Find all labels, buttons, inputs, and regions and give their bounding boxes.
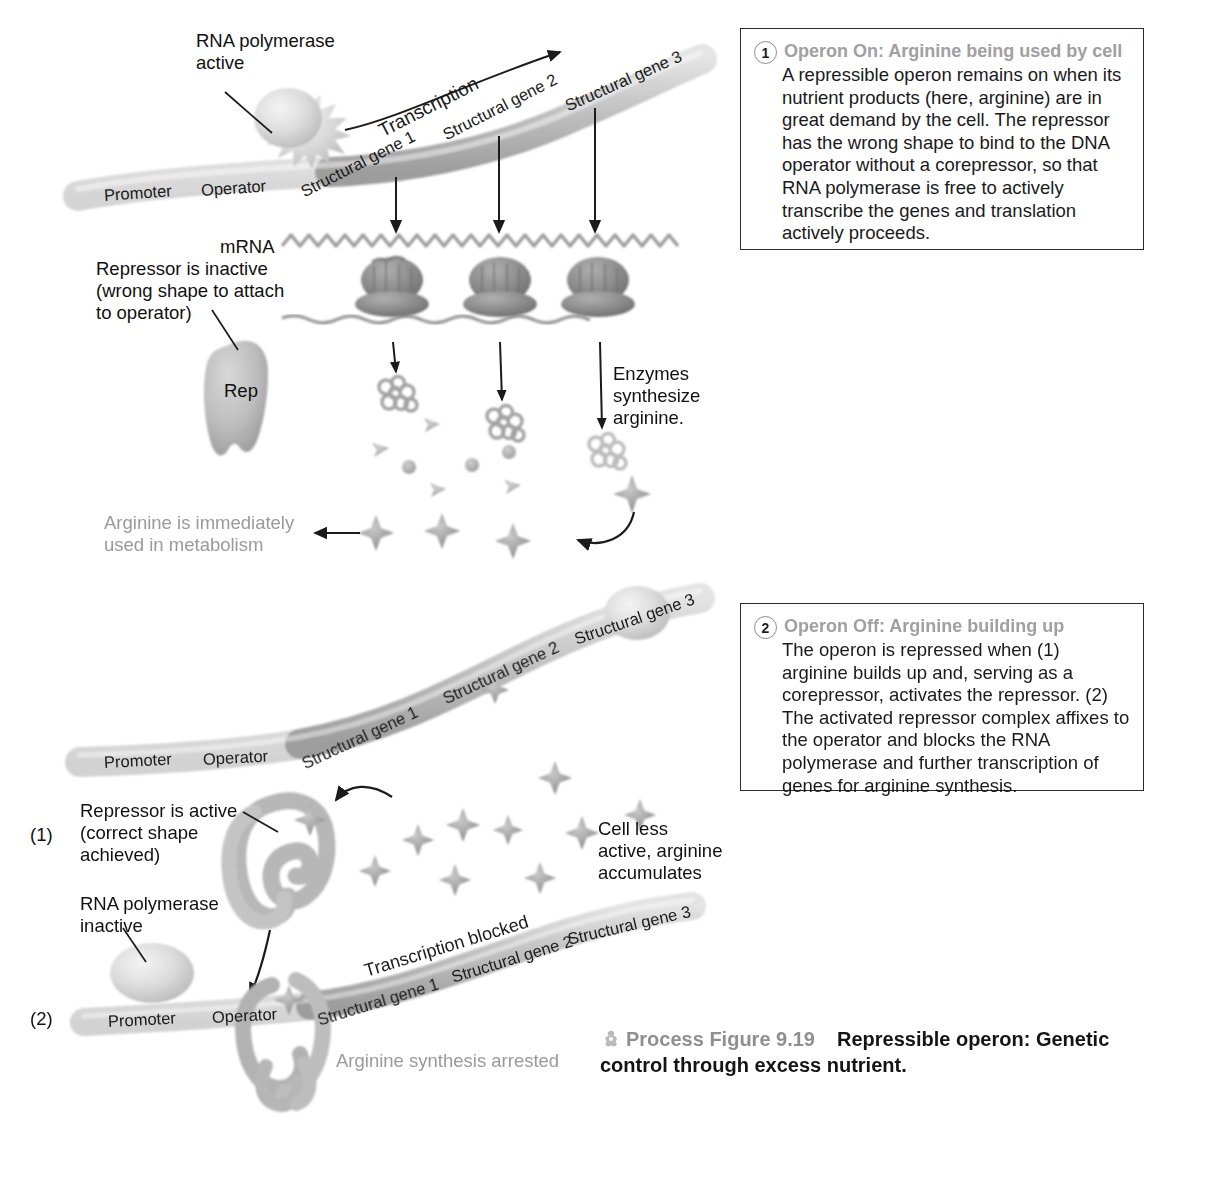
dna-label-gene1-off-top: Structural gene 1: [299, 703, 421, 773]
callout-1-body: A repressible operon remains on when its…: [782, 64, 1130, 245]
dna-label-gene1-off-bottom: Structural gene 1: [315, 975, 441, 1030]
repressor-tag: Rep: [224, 380, 258, 402]
arginine-arrested-label: Arginine synthesis arrested: [336, 1050, 559, 1072]
callout-1-title: Operon On: Arginine being used by cell: [784, 40, 1122, 62]
step-1-marker: (1): [30, 824, 53, 846]
dna-label-operator-off-top: Operator: [203, 747, 269, 769]
repressor-active-label: Repressor is active (correct shape achie…: [80, 800, 237, 866]
figure-caption: Process Figure 9.19Repressible operon: G…: [600, 1026, 1180, 1078]
repressor-active-shape: [229, 801, 327, 922]
mrna-label: mRNA: [220, 236, 274, 258]
dna-label-operator-off-bottom: Operator: [212, 1005, 278, 1027]
dna-label-operator-on: Operator: [200, 176, 266, 199]
cell-less-active-label: Cell less active, arginine accumulates: [598, 818, 722, 884]
rna-polymerase-active-shape: [254, 88, 351, 169]
callout-box-1: 1 Operon On: Arginine being used by cell…: [740, 28, 1144, 250]
dna-label-gene2-off-top: Structural gene 2: [440, 638, 562, 708]
callout-box-2: 2 Operon Off: Arginine building up The o…: [740, 603, 1144, 791]
enzymes-synthesize-label: Enzymes synthesize arginine.: [613, 363, 700, 429]
callout-2-number: 2: [754, 616, 777, 639]
figure-number: Process Figure 9.19: [626, 1028, 815, 1050]
process-figure-icon: [600, 1028, 622, 1050]
rna-polymerase-inactive-label: RNA polymerase inactive: [80, 893, 219, 937]
dna-label-promoter-on: Promoter: [103, 181, 172, 205]
corepressor-star: [294, 804, 326, 836]
dna-label-promoter-off-top: Promoter: [104, 749, 173, 772]
dna-label-gene3-off-bottom: Structural gene 3: [566, 902, 693, 949]
repressor-inactive-label: Repressor is inactive (wrong shape to at…: [96, 258, 284, 324]
precursor-molecules: [372, 418, 521, 497]
dna-strand-off-top: [80, 591, 700, 762]
repressor-bound-shape: [243, 980, 323, 1105]
transcription-blocked-label: Transcription blocked: [362, 912, 531, 982]
arginine-group-on: [358, 475, 651, 559]
rna-polymerase-inactive-shape: [110, 943, 194, 1003]
arginine-used-label: Arginine is immediately used in metaboli…: [104, 512, 294, 556]
corepressor-star-bound: [274, 985, 304, 1015]
dna-label-gene3-on: Structural gene 3: [562, 47, 685, 115]
ribosome-group: [355, 257, 635, 317]
rna-polymerase-active-label: RNA polymerase active: [196, 30, 335, 74]
callout-2-body: The operon is repressed when (1) arginin…: [782, 639, 1130, 797]
dna-label-gene3-off-top: Structural gene 3: [572, 590, 697, 649]
dna-label-gene1-on: Structural gene 1: [298, 127, 419, 201]
figure-canvas: RNA polymerase active Promoter Operator …: [0, 0, 1220, 1179]
enzyme-group: [379, 377, 626, 470]
callout-2-title: Operon Off: Arginine building up: [784, 615, 1064, 637]
callout-1-number: 1: [754, 41, 777, 64]
dna-label-promoter-off-bottom: Promoter: [108, 1008, 177, 1031]
mrna-strand: [282, 235, 678, 246]
step-2-marker: (2): [30, 1008, 53, 1030]
